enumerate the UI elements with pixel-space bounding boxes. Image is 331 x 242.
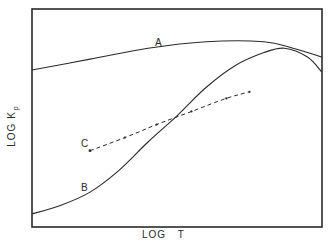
curve-c-label: C <box>81 138 88 149</box>
curve-a-label: A <box>155 37 162 48</box>
curve-b-label: B <box>81 182 88 193</box>
curve-c-marker <box>225 97 227 99</box>
curve-c-marker <box>190 110 192 112</box>
curve-c-marker <box>248 91 250 93</box>
y-axis-label: LOG Kp <box>2 91 20 161</box>
x-axis-label: LOG T <box>142 229 185 240</box>
curve-c-markers <box>89 91 251 152</box>
curve-c-marker <box>156 123 158 125</box>
curve-c-dashed-line <box>90 92 250 151</box>
curve-b-line <box>32 48 322 214</box>
chart-canvas <box>0 0 331 242</box>
curve-a-line <box>32 41 322 70</box>
curve-c-marker <box>124 137 126 139</box>
plot-frame <box>32 9 322 227</box>
y-axis-label-subscript: p <box>12 105 19 110</box>
curve-c-marker <box>89 149 92 152</box>
y-axis-label-main: LOG K <box>6 111 17 147</box>
